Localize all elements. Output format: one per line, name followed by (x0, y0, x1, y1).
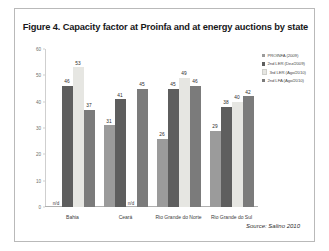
x-axis-category-label: Ceará (99, 214, 152, 220)
bar[interactable] (73, 67, 84, 207)
y-axis-tick-mark (43, 180, 45, 181)
y-axis-tick-label: 60 (36, 47, 41, 52)
legend-item-label: 3rd LER (Ago/2010) (269, 70, 305, 75)
bar[interactable] (190, 86, 201, 207)
bar-value-label: 38 (223, 100, 228, 105)
bar-value-label: 46 (192, 79, 197, 84)
legend-color-swatch (262, 69, 267, 74)
legend-item-label: 2nd LER (Dez/2009) (267, 61, 304, 66)
bar-slot: 42 (243, 49, 254, 207)
bar-value-label: 45 (170, 82, 175, 87)
y-axis-tick-label: 50 (36, 73, 41, 78)
x-axis-category-label: Rio Grande do Norte (152, 214, 205, 220)
legend-item[interactable]: 2nd LER (Dez/2009) (262, 60, 314, 68)
bar-value-label: 53 (75, 61, 80, 66)
bar[interactable] (104, 125, 115, 207)
bar-group-bars: 29384042 (205, 49, 258, 207)
bar-value-label: 29 (212, 124, 217, 129)
y-axis-tick-label: 30 (36, 126, 41, 131)
figure-container: Figure 4. Capacity factor at Proinfa and… (14, 8, 315, 242)
bar-slot: 46 (190, 49, 201, 207)
bar-value-label: 26 (159, 132, 164, 137)
bar-groups: n/d465337Bahia3141n/d45Ceará26454946Rio … (46, 49, 258, 207)
bar-group-bars: 26454946 (152, 49, 205, 207)
y-axis-tick-label: 10 (36, 178, 41, 183)
y-axis-tick-mark (43, 101, 45, 102)
y-axis-tick-mark (43, 128, 45, 129)
bar-group-bars: n/d465337 (46, 49, 99, 207)
bar-value-label: 41 (117, 93, 122, 98)
bar-slot: 29 (210, 49, 221, 207)
bar-slot: 45 (137, 49, 148, 207)
bar-value-label: 40 (234, 95, 239, 100)
legend-item[interactable]: 2nd LFA (Ago/2010) (262, 77, 314, 85)
bar-slot: n/d (51, 49, 62, 207)
legend-color-swatch (262, 62, 265, 65)
y-axis-tick-label: 20 (36, 152, 41, 157)
y-axis-tick-label: 0 (38, 205, 41, 210)
bar[interactable] (137, 89, 148, 208)
legend-item-label: PROINFA (2009) (267, 53, 298, 58)
legend-color-swatch (262, 54, 265, 57)
bar[interactable] (168, 89, 179, 208)
bar-value-label: 31 (106, 119, 111, 124)
bar[interactable] (179, 78, 190, 207)
bar-value-label: 45 (139, 82, 144, 87)
bar-value-label: 49 (181, 71, 186, 76)
bar-value-label: 42 (245, 90, 250, 95)
bar-group: n/d465337Bahia (46, 49, 99, 207)
y-axis-tick-mark (43, 75, 45, 76)
bar-value-label: 46 (64, 79, 69, 84)
bar-slot: 26 (157, 49, 168, 207)
bar-slot: 45 (168, 49, 179, 207)
bar-slot: 37 (84, 49, 95, 207)
legend-item[interactable]: 3rd LER (Ago/2010) (262, 68, 314, 76)
bar[interactable] (210, 131, 221, 207)
bar-group: 3141n/d45Ceará (99, 49, 152, 207)
bar-slot: 53 (73, 49, 84, 207)
bar[interactable] (157, 139, 168, 207)
y-axis-tick-mark (43, 207, 45, 208)
bar-slot: 46 (62, 49, 73, 207)
y-axis-tick-mark (43, 49, 45, 50)
no-data-marker: n/d (128, 201, 134, 206)
bar-group: 29384042Rio Grande do Sul (205, 49, 258, 207)
legend-color-swatch (262, 79, 265, 82)
bar[interactable] (115, 99, 126, 207)
bar-group: 26454946Rio Grande do Norte (152, 49, 205, 207)
legend-item[interactable]: PROINFA (2009) (262, 52, 314, 60)
bar-slot: 38 (221, 49, 232, 207)
chart-title: Figure 4. Capacity factor at Proinfa and… (15, 22, 316, 32)
y-axis-tick-mark (43, 154, 45, 155)
bar-slot: n/d (126, 49, 137, 207)
bar[interactable] (84, 110, 95, 207)
chart-legend: PROINFA (2009)2nd LER (Dez/2009)3rd LER … (262, 52, 314, 85)
bar[interactable] (232, 102, 243, 207)
y-axis-tick-label: 40 (36, 99, 41, 104)
bar[interactable] (62, 86, 73, 207)
bar-slot: 40 (232, 49, 243, 207)
bar-slot: 31 (104, 49, 115, 207)
bar-value-label: 37 (86, 103, 91, 108)
bar[interactable] (221, 107, 232, 207)
no-data-marker: n/d (53, 201, 59, 206)
legend-item-label: 2nd LFA (Ago/2010) (267, 78, 303, 83)
bar-slot: 49 (179, 49, 190, 207)
plot-area: 0102030405060 n/d465337Bahia3141n/d45Cea… (45, 49, 258, 207)
bar-group-bars: 3141n/d45 (99, 49, 152, 207)
bar-slot: 41 (115, 49, 126, 207)
x-axis-category-label: Bahia (46, 214, 99, 220)
x-axis-category-label: Rio Grande do Sul (205, 214, 258, 220)
bar[interactable] (243, 96, 254, 207)
source-note: Source: Salino 2010 (246, 223, 300, 229)
